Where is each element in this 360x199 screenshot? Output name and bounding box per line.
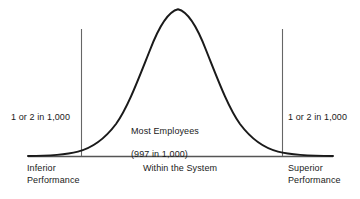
bell-curve-figure: 1 or 2 in 1,000 1 or 2 in 1,000 Most Emp… [0,0,360,199]
tail-right-annotation: 1 or 2 in 1,000 [288,112,347,124]
center-annotation-line2: (997 in 1,000) [131,149,199,161]
center-annotation-line1: Most Employees [131,126,199,138]
axis-label-superior-performance: Superior Performance [288,163,341,186]
tail-left-annotation: 1 or 2 in 1,000 [11,112,70,124]
